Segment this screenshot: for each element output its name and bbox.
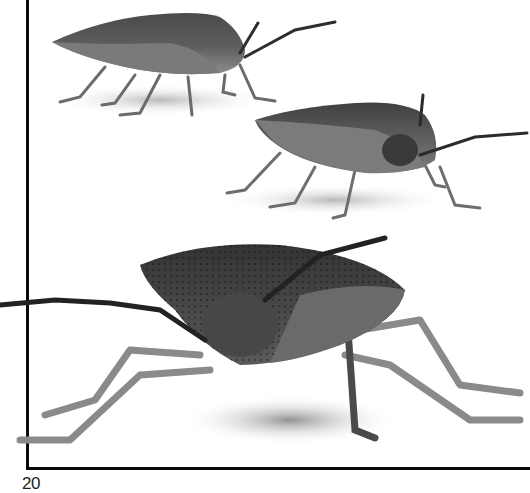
shield-bug-photo-2 [215,95,530,220]
head [202,293,278,357]
frame-bottom-rule [26,467,530,470]
shadow [220,184,450,216]
head [382,134,418,166]
page-number: 20 [22,474,40,493]
shield-bug-photo-3 [0,225,530,455]
antennae [240,22,335,57]
